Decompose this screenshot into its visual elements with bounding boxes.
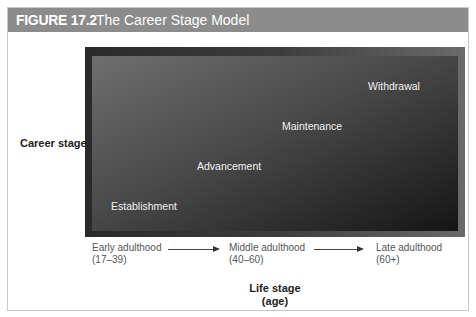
life-stage-early: Early adulthood (17–39) xyxy=(92,242,162,266)
stage-maintenance: Maintenance xyxy=(282,120,342,132)
stage-advancement: Advancement xyxy=(197,160,261,172)
life-stage-middle-label: Middle adulthood xyxy=(229,242,305,254)
figure-number: FIGURE 17.2 xyxy=(16,12,97,28)
x-axis-label: Life stage (age) xyxy=(245,282,305,308)
y-axis-label: Career stage xyxy=(20,137,87,149)
figure-title: The Career Stage Model xyxy=(96,12,249,28)
stage-establishment: Establishment xyxy=(111,200,177,212)
stage-withdrawal: Withdrawal xyxy=(368,80,420,92)
arrow-right-icon xyxy=(314,249,362,250)
x-axis-label-line1: Life stage xyxy=(245,282,305,295)
life-stage-middle: Middle adulthood (40–60) xyxy=(229,242,305,266)
life-stage-middle-range: (40–60) xyxy=(229,254,305,266)
life-stage-early-range: (17–39) xyxy=(92,254,162,266)
life-stage-late-label: Late adulthood xyxy=(376,242,442,254)
x-axis-label-line2: (age) xyxy=(245,295,305,308)
life-stage-late-range: (60+) xyxy=(376,254,442,266)
figure-header: FIGURE 17.2 The Career Stage Model xyxy=(8,8,468,32)
life-stage-early-label: Early adulthood xyxy=(92,242,162,254)
life-stage-late: Late adulthood (60+) xyxy=(376,242,442,266)
arrow-right-icon xyxy=(168,249,218,250)
